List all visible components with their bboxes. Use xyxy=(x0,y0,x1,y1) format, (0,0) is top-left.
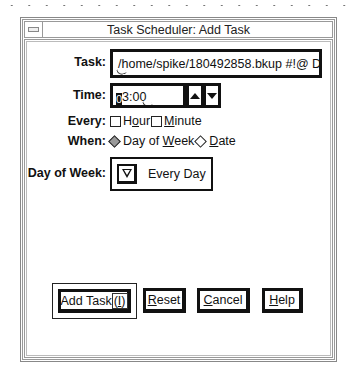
time-label: Time: xyxy=(40,88,106,102)
when-label: When: xyxy=(40,134,106,148)
cancel-label: Cancel xyxy=(204,293,243,307)
reset-label: Reset xyxy=(148,293,181,307)
every-label: Every: xyxy=(40,114,106,128)
add-task-label: Add Task(I) xyxy=(60,294,127,308)
reset-button[interactable]: Reset xyxy=(143,288,186,313)
when-date-label: Date xyxy=(209,134,235,148)
checkbox-icon xyxy=(110,116,121,127)
task-input[interactable]: /home/spike/180492858.bkup #!@ Do xyxy=(110,49,322,78)
time-input[interactable]: 03:00 xyxy=(110,83,186,108)
help-label: Help xyxy=(269,293,295,307)
mouse-cursor-icon xyxy=(116,67,127,77)
title-bar[interactable]: Task Scheduler: Add Task xyxy=(24,21,333,38)
every-minute-label: Minute xyxy=(164,114,202,128)
help-button[interactable]: Help xyxy=(262,288,303,313)
mouse-cursor-icon xyxy=(142,99,153,108)
when-day-of-week-radio[interactable]: Day of Week xyxy=(108,134,194,148)
day-of-week-dropdown[interactable]: Every Day xyxy=(110,157,213,191)
window-menu-button[interactable] xyxy=(25,22,43,37)
time-decrement-button[interactable] xyxy=(203,83,221,108)
every-minute-checkbox[interactable]: Minute xyxy=(151,114,202,128)
every-hour-label: Hour xyxy=(123,114,150,128)
dropdown-button[interactable] xyxy=(117,164,137,184)
radio-selected-icon xyxy=(108,135,121,148)
time-increment-button[interactable] xyxy=(186,83,204,108)
radio-unselected-icon xyxy=(194,135,207,148)
window-title: Task Scheduler: Add Task xyxy=(107,23,250,37)
arrow-up-icon xyxy=(190,93,200,99)
chevron-down-icon xyxy=(122,169,132,178)
checkbox-icon xyxy=(151,116,162,127)
add-task-button[interactable]: Add Task(I) xyxy=(58,289,131,313)
desktop-dot-pattern xyxy=(0,4,355,7)
when-options: Day of Week Date xyxy=(108,134,236,148)
day-of-week-label: Day of Week: xyxy=(4,166,106,180)
day-of-week-value: Every Day xyxy=(148,167,206,181)
task-label: Task: xyxy=(40,55,106,69)
focus-indicator: (I) xyxy=(112,293,128,309)
cancel-button[interactable]: Cancel xyxy=(197,288,250,313)
window-menu-icon xyxy=(28,27,39,32)
when-day-of-week-label: Day of Week xyxy=(123,134,194,148)
when-date-radio[interactable]: Date xyxy=(194,134,235,148)
every-hour-checkbox[interactable]: Hour xyxy=(110,114,150,128)
every-options: Hour Minute xyxy=(110,114,202,128)
task-input-value: /home/spike/180492858.bkup #!@ Do xyxy=(118,57,322,71)
arrow-down-icon xyxy=(207,93,217,99)
